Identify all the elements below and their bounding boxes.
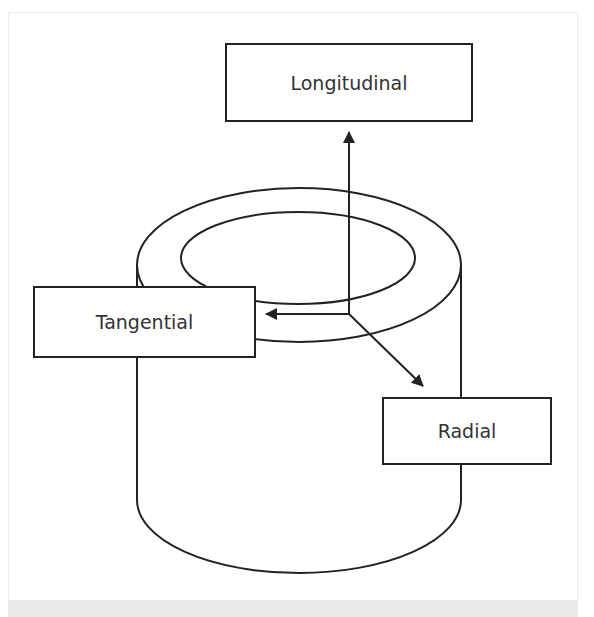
- longitudinal-label: Longitudinal: [290, 72, 407, 94]
- longitudinal-label-box: Longitudinal: [225, 43, 473, 122]
- radial-label: Radial: [438, 420, 497, 442]
- radial-label-box: Radial: [382, 397, 552, 465]
- cylinder-bottom-edge: [137, 500, 461, 573]
- tangential-label: Tangential: [96, 311, 194, 333]
- tangential-label-box: Tangential: [33, 286, 256, 358]
